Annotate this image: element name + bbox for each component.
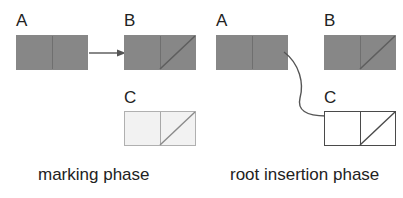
node-box-c-root xyxy=(324,111,396,146)
node-half-left xyxy=(217,36,252,69)
caption-root-insertion-phase: root insertion phase xyxy=(230,166,379,183)
node-diagonal-icon xyxy=(125,112,195,145)
node-label-a-marking: A xyxy=(16,12,27,29)
node-diagonal-icon xyxy=(325,36,395,69)
node-half-left xyxy=(17,36,52,69)
panel-marking-phase: A B C xyxy=(0,0,200,198)
node-box-a-marking xyxy=(16,35,88,70)
node-label-b-root: B xyxy=(324,12,335,29)
node-box-c-marking xyxy=(124,111,196,146)
arrow-marking-a-to-b xyxy=(88,44,128,62)
node-label-b-marking: B xyxy=(124,12,135,29)
node-label-c-marking: C xyxy=(124,89,136,106)
node-box-a-root xyxy=(216,35,288,70)
panel-root-insertion-phase: A B C xyxy=(200,0,403,198)
node-box-b-marking xyxy=(124,35,196,70)
node-diagonal-icon xyxy=(325,112,395,145)
node-diagonal-icon xyxy=(125,36,195,69)
node-label-a-root: A xyxy=(216,12,227,29)
figure-canvas: A B C xyxy=(0,0,403,198)
node-box-b-root xyxy=(324,35,396,70)
caption-marking-phase: marking phase xyxy=(38,166,150,183)
node-label-c-root: C xyxy=(324,89,336,106)
node-half-right xyxy=(52,36,87,69)
